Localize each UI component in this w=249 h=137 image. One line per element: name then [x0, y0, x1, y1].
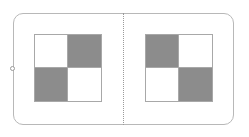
connection-handle-icon[interactable] [10, 66, 15, 71]
grid-cell [35, 35, 68, 68]
grid-cell [179, 35, 212, 68]
checker-grid-left [34, 34, 102, 102]
grid-cell [146, 35, 179, 68]
dotted-divider [123, 13, 124, 125]
grid-cell [68, 68, 101, 101]
grid-cell [68, 35, 101, 68]
grid-cell [179, 68, 212, 101]
checker-grid-right [145, 34, 213, 102]
grid-cell [146, 68, 179, 101]
grid-cell [35, 68, 68, 101]
